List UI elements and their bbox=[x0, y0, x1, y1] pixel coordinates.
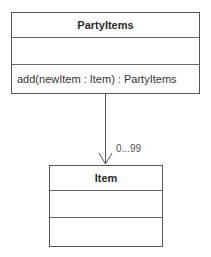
class-item[interactable]: Item bbox=[49, 165, 163, 247]
class-name-compartment: Item bbox=[50, 166, 162, 191]
class-name: PartyItems bbox=[77, 19, 133, 31]
multiplicity-label: 0...99 bbox=[116, 143, 141, 154]
class-party-items[interactable]: PartyItems add(newItem : Item) : PartyIt… bbox=[11, 12, 200, 94]
class-name-compartment: PartyItems bbox=[12, 13, 199, 38]
open-arrowhead-icon bbox=[99, 153, 112, 164]
attributes-compartment bbox=[12, 38, 199, 65]
operations-compartment: add(newItem : Item) : PartyItems bbox=[12, 65, 199, 93]
operations-compartment bbox=[50, 218, 162, 246]
operation-add: add(newItem : Item) : PartyItems bbox=[17, 73, 177, 85]
attributes-compartment bbox=[50, 191, 162, 218]
class-name: Item bbox=[95, 172, 118, 184]
